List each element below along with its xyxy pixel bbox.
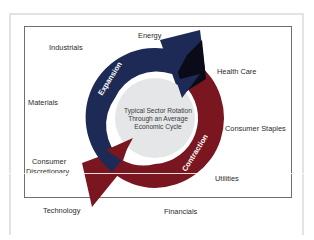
sector-label-energy: Energy xyxy=(138,31,161,40)
center-title-line-1: Typical Sector Rotation xyxy=(118,107,198,115)
sector-label-consumer-staples: Consumer Staples xyxy=(225,124,286,133)
center-title-line-2: Through an Average xyxy=(118,115,198,123)
sector-label-utilities: Utilities xyxy=(215,174,239,183)
sector-label-financials: Financials xyxy=(164,207,197,216)
sector-label-materials: Materials xyxy=(28,98,58,107)
sector-label-consumer-discretionary-2: Discretionary xyxy=(26,167,69,176)
sector-label-industrials: Industrials xyxy=(49,43,83,52)
sector-label-consumer-discretionary-1: Consumer xyxy=(32,157,66,166)
center-title-line-3: Economic Cycle xyxy=(118,123,198,131)
sector-label-health-care: Health Care xyxy=(217,67,256,76)
sector-label-technology: Technology xyxy=(43,206,80,215)
center-title: Typical Sector Rotation Through an Avera… xyxy=(118,107,198,131)
scan-artifact-line xyxy=(0,173,314,174)
